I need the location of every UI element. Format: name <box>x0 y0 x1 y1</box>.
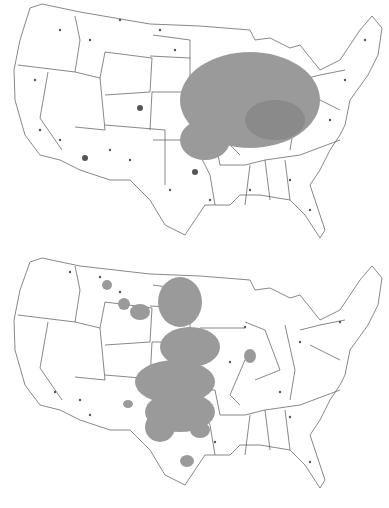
us-map-top <box>0 0 389 250</box>
us-map-bottom <box>0 252 389 508</box>
map-top-panel <box>0 0 389 250</box>
density-shading <box>102 277 256 467</box>
map-bottom-panel <box>0 252 389 508</box>
